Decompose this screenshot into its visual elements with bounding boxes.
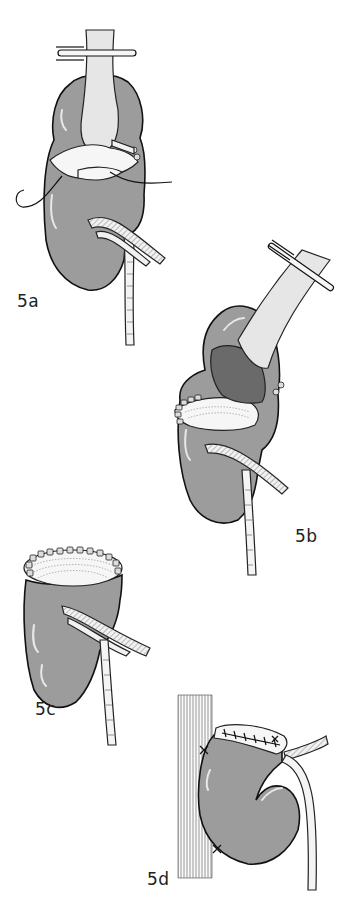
panel-label-5b: 5b xyxy=(295,528,318,545)
panel-5b-drawing xyxy=(175,240,335,575)
panel-label-5a: 5a xyxy=(17,293,39,310)
panel-label-5d: 5d xyxy=(147,871,170,888)
panel-5d-drawing xyxy=(178,695,328,890)
panel-5a-drawing xyxy=(16,30,172,345)
surgical-illustration xyxy=(0,0,354,910)
panel-label-5c: 5c xyxy=(35,701,56,718)
